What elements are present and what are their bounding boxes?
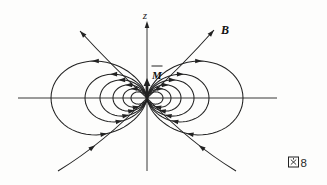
field-b-label: B xyxy=(220,23,229,37)
figure-caption: 8 xyxy=(289,157,307,169)
loop-arrowhead xyxy=(177,72,184,77)
origin-knot xyxy=(145,96,148,99)
lower-right-field-line-arrowhead xyxy=(199,145,206,151)
field-lines-canvas: z M B 8 xyxy=(0,0,327,185)
loop-arrowhead xyxy=(169,78,176,83)
loop-arrowhead xyxy=(92,59,99,64)
dipole-moment-arrowhead xyxy=(144,78,151,86)
loop-arrowhead xyxy=(195,59,202,64)
loop-arrowhead xyxy=(118,78,125,83)
lower-left-field-line-arrowhead xyxy=(88,145,95,151)
field-lines-layer xyxy=(18,21,277,171)
dipole-moment-label: M xyxy=(151,69,163,81)
z-axis-label: z xyxy=(142,9,148,21)
loop-arrowhead xyxy=(110,72,117,77)
z-axis-arrowhead xyxy=(145,21,150,28)
kanji-zu-icon xyxy=(289,157,299,167)
caption-number: 8 xyxy=(301,157,307,169)
dipole-field-figure: z M B 8 xyxy=(0,0,327,185)
